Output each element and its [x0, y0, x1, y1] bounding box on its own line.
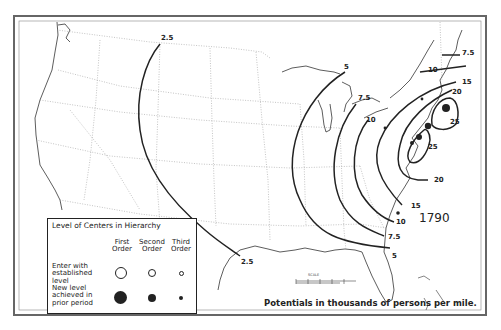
- center-albany: [421, 98, 424, 101]
- isoline-label-7-5-north: 7.5: [358, 94, 370, 102]
- isoline-label-20-ne: 20: [452, 88, 462, 96]
- hollow-circle-large-icon: [115, 267, 127, 279]
- isoline-label-15-south: 15: [411, 202, 421, 210]
- isoline-label-10-west: 10: [366, 116, 376, 124]
- isoline-10: [354, 120, 394, 222]
- isoline-label-5-south: 5: [392, 252, 397, 260]
- isoline-7-5: [334, 104, 384, 236]
- legend-col-label: Order: [106, 246, 138, 253]
- isoline-label-7-5-ne: 7.5: [462, 49, 474, 57]
- map-year: 1790: [419, 211, 450, 225]
- isoline-label-25-b: 25: [428, 143, 438, 151]
- center-newyork: [425, 123, 431, 129]
- center-philadelphia: [416, 134, 422, 140]
- isoline-label-2-5-south: 2.5: [241, 258, 253, 266]
- legend-col-label: Order: [165, 246, 197, 253]
- isoline-5: [292, 72, 390, 248]
- hollow-circle-small-icon: [179, 271, 184, 276]
- center-boston: [442, 104, 450, 112]
- scale-label: SCALE: [308, 273, 319, 277]
- center-charleston: [396, 211, 400, 215]
- filled-circle-small-icon: [179, 296, 183, 300]
- legend-col-first-order: First Order: [106, 239, 138, 254]
- isoline-label-5-north: 5: [344, 63, 349, 71]
- legend-row-label: prior period: [52, 300, 107, 307]
- legend-col-third-order: Third Order: [165, 239, 197, 254]
- map-caption: Potentials in thousands of persons per m…: [264, 298, 477, 308]
- hollow-circle-medium-icon: [148, 269, 156, 277]
- legend-title: Level of Centers in Hierarchy: [52, 222, 161, 230]
- filled-circle-medium-icon: [148, 294, 156, 302]
- isoline-label-10-ne: 10: [428, 66, 438, 74]
- center-baltimore: [410, 141, 414, 145]
- isoline-label-25-a: 25: [450, 118, 460, 126]
- isoline-label-20-south: 20: [434, 176, 444, 184]
- scale-bar: [296, 279, 356, 284]
- legend-box: Level of Centers in Hierarchy First Orde…: [47, 218, 197, 314]
- isoline-20: [398, 90, 452, 180]
- isoline-label-10-south: 10: [396, 218, 406, 226]
- legend-row-new-level: New level achieved in prior period: [52, 285, 107, 307]
- isoline-label-2-5-north: 2.5: [161, 34, 173, 42]
- isoline-10-ne: [420, 66, 466, 72]
- legend-row-label: established level: [52, 270, 107, 285]
- legend-row-established: Enter with established level: [52, 263, 107, 285]
- legend-col-label: Order: [136, 246, 168, 253]
- filled-circle-large-icon: [114, 291, 127, 304]
- center-pittsburgh: [384, 127, 387, 130]
- isoline-label-7-5-south: 7.5: [388, 233, 400, 241]
- legend-col-second-order: Second Order: [136, 239, 168, 254]
- isoline-label-15-ne: 15: [462, 78, 472, 86]
